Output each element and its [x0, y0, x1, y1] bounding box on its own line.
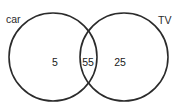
- region-value-tv-only: 25: [114, 56, 126, 68]
- set-label-tv: TV: [158, 14, 171, 26]
- venn-diagram: car TV 5 55 25: [0, 0, 179, 111]
- set-label-car: car: [6, 13, 21, 25]
- region-value-car-only: 5: [52, 56, 58, 68]
- venn-canvas: car TV 5 55 25: [0, 0, 179, 111]
- region-value-intersection: 55: [82, 56, 94, 68]
